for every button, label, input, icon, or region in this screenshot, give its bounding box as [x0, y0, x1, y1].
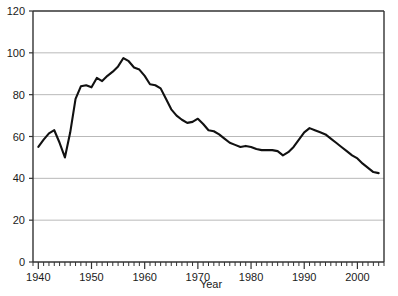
y-tick-label-120: 120 — [7, 5, 25, 17]
x-tick-label-1960: 1960 — [132, 271, 156, 283]
y-tick-label-100: 100 — [7, 47, 25, 59]
y-tick-label-20: 20 — [13, 214, 25, 226]
x-axis-title: Year — [200, 278, 223, 290]
y-tick-label-40: 40 — [13, 172, 25, 184]
x-tick-label-1940: 1940 — [26, 271, 50, 283]
chart-container: 020406080100120 194019501960197019801990… — [0, 0, 398, 296]
y-tick-label-0: 0 — [19, 256, 25, 268]
chart-background — [0, 0, 398, 296]
y-tick-label-80: 80 — [13, 89, 25, 101]
x-tick-label-1950: 1950 — [79, 271, 103, 283]
y-tick-label-60: 60 — [13, 131, 25, 143]
x-tick-label-1980: 1980 — [239, 271, 263, 283]
x-tick-label-2000: 2000 — [345, 271, 369, 283]
line-chart: 020406080100120 194019501960197019801990… — [0, 0, 398, 296]
x-tick-label-1990: 1990 — [292, 271, 316, 283]
